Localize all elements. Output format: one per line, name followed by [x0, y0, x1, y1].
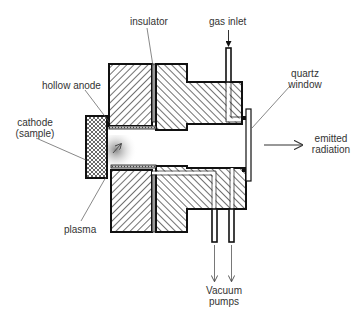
hollow-anode-top-liner: [109, 126, 156, 129]
vacuum-pump-tubes: [212, 209, 234, 281]
label-emitted-radiation-line1: emitted: [306, 133, 356, 144]
label-insulator: insulator: [130, 16, 168, 27]
hollow-anode-bottom-liner: [111, 165, 156, 168]
top-anode-block: [109, 64, 152, 126]
label-plasma: plasma: [64, 224, 96, 235]
plasma-glow: [107, 135, 137, 165]
hollow-anode-diagram: [0, 0, 358, 323]
label-vacuum-pumps-line1: Vacuum: [196, 285, 252, 296]
cathode-sample: [86, 116, 107, 178]
label-cathode-line1: cathode: [12, 117, 58, 128]
label-cathode: cathode (sample): [12, 117, 58, 139]
quartz-window: [242, 109, 251, 181]
label-emitted-radiation: emitted radiation: [306, 133, 356, 155]
label-vacuum-pumps: Vacuum pumps: [196, 285, 252, 307]
label-hollow-anode: hollow anode: [42, 80, 101, 91]
label-gas-inlet: gas inlet: [209, 16, 246, 27]
label-vacuum-pumps-line2: pumps: [196, 296, 252, 307]
bottom-anode-block: [111, 170, 152, 232]
label-cathode-line2: (sample): [12, 128, 58, 139]
label-emitted-radiation-line2: radiation: [306, 144, 356, 155]
gas-inlet-tube: [226, 30, 231, 82]
label-quartz-window-line1: quartz: [278, 68, 332, 79]
label-quartz-window-line2: window: [278, 79, 332, 90]
label-quartz-window: quartz window: [278, 68, 332, 90]
